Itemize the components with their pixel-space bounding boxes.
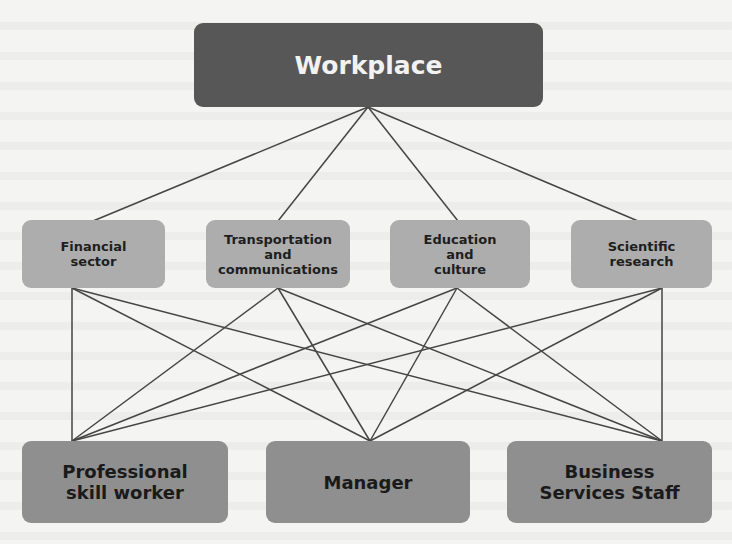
node-transportation-communications: Transportation and communications xyxy=(206,220,350,288)
node-business-services-staff: Business Services Staff xyxy=(507,441,712,523)
edge-workplace-education xyxy=(368,107,458,221)
edge-financial-manager xyxy=(72,288,370,441)
node-workplace-label: Workplace xyxy=(295,51,443,80)
edge-education-professional xyxy=(72,288,457,441)
edge-transport-business xyxy=(278,288,662,441)
edge-workplace-scientific xyxy=(368,107,638,221)
node-scientific-label: Scientific research xyxy=(608,239,676,269)
edge-education-business xyxy=(457,288,662,441)
node-scientific-research: Scientific research xyxy=(571,220,712,288)
node-financial-sector: Financial sector xyxy=(22,220,165,288)
node-education-culture: Education and culture xyxy=(390,220,530,288)
node-workplace: Workplace xyxy=(194,23,543,107)
node-business-label: Business Services Staff xyxy=(539,461,679,503)
node-manager: Manager xyxy=(266,441,470,523)
node-education-label: Education and culture xyxy=(424,232,497,277)
edge-workplace-transport xyxy=(278,107,368,221)
node-financial-sector-label: Financial sector xyxy=(60,239,126,269)
node-transportation-label: Transportation and communications xyxy=(218,232,338,277)
edge-workplace-financial xyxy=(93,107,368,221)
node-professional-skill-worker: Professional skill worker xyxy=(22,441,228,523)
node-professional-label: Professional skill worker xyxy=(62,461,188,503)
node-manager-label: Manager xyxy=(324,472,413,493)
edge-transport-professional xyxy=(72,288,278,441)
